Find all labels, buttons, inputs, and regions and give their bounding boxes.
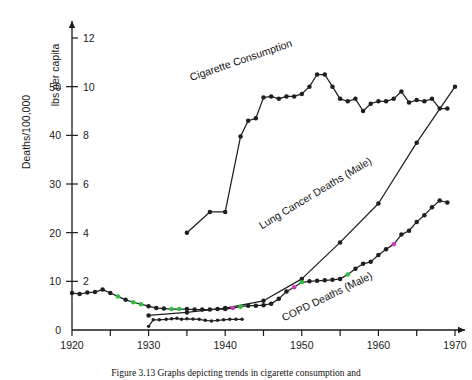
data-point-marker xyxy=(453,84,458,89)
data-point-marker xyxy=(277,297,282,302)
series-labels-layer: Cigarette ConsumptionLung Cancer Deaths … xyxy=(188,37,374,324)
data-point-marker xyxy=(414,220,419,225)
data-point-marker xyxy=(307,279,312,284)
y-axis-tick-label: 20 xyxy=(49,227,61,239)
data-point-marker xyxy=(346,272,351,277)
data-point-marker xyxy=(180,318,183,321)
data-point-marker xyxy=(261,299,266,304)
x-axis-tick-label: 1920 xyxy=(60,339,84,351)
y2-axis-title: lbs per capita xyxy=(49,44,61,107)
data-point-marker xyxy=(210,319,213,322)
data-point-marker xyxy=(399,232,404,237)
data-point-marker xyxy=(139,302,144,307)
data-point-marker xyxy=(197,318,200,321)
data-point-marker xyxy=(231,306,236,311)
data-point-marker xyxy=(292,285,297,290)
data-point-marker xyxy=(234,318,237,321)
data-point-marker xyxy=(165,318,168,321)
data-point-marker xyxy=(384,247,389,252)
data-point-marker xyxy=(77,292,82,297)
data-point-marker xyxy=(116,294,121,299)
data-point-marker xyxy=(177,307,182,312)
data-point-marker xyxy=(204,319,207,322)
data-point-marker xyxy=(254,116,259,121)
y-axis-tick-label: 40 xyxy=(49,129,61,141)
data-point-marker xyxy=(223,210,228,215)
series-line xyxy=(187,75,447,233)
data-point-marker xyxy=(154,306,159,311)
series-label: Lung Cancer Deaths (Male) xyxy=(257,154,374,231)
data-point-marker xyxy=(430,205,435,210)
data-point-marker xyxy=(376,201,381,206)
axis-titles-layer: Deaths/100,000lbs per capita xyxy=(20,44,61,169)
data-point-marker xyxy=(338,277,343,282)
data-point-marker xyxy=(399,89,404,94)
series-lower-baseline-trace xyxy=(147,317,244,328)
data-point-marker xyxy=(391,242,396,247)
data-point-marker xyxy=(228,318,231,321)
data-point-marker xyxy=(175,317,178,320)
data-point-marker xyxy=(338,240,343,245)
data-point-marker xyxy=(254,303,259,308)
data-point-marker xyxy=(376,99,381,104)
y2-axis-tick-label: 2 xyxy=(83,275,89,287)
data-point-marker xyxy=(100,287,105,292)
y2-axis-tick-label: 12 xyxy=(83,32,95,44)
data-point-marker xyxy=(391,97,396,102)
data-point-marker xyxy=(185,230,190,235)
x-axis-tick-label: 1970 xyxy=(443,339,467,351)
data-point-marker xyxy=(323,72,328,77)
y-axis-title: Deaths/100,000 xyxy=(20,95,32,169)
x-axis-tick-label: 1930 xyxy=(137,339,161,351)
data-point-marker xyxy=(422,213,427,218)
y2-axis-tick-label: 6 xyxy=(83,178,89,190)
series-line xyxy=(72,201,447,310)
x-axis-tick-label: 1960 xyxy=(367,339,391,351)
data-point-marker xyxy=(240,318,243,321)
data-point-marker xyxy=(108,291,113,296)
data-point-marker xyxy=(246,118,251,123)
y-axis-arrow-icon xyxy=(69,21,75,28)
data-point-marker xyxy=(277,97,282,102)
data-point-marker xyxy=(353,266,358,271)
data-point-marker xyxy=(162,306,167,311)
data-point-marker xyxy=(300,280,305,285)
data-point-marker xyxy=(93,290,98,295)
data-point-marker xyxy=(414,98,419,103)
data-point-marker xyxy=(407,228,412,233)
data-point-marker xyxy=(261,95,266,100)
x-axis-tick-label: 1950 xyxy=(290,339,314,351)
data-point-marker xyxy=(238,134,243,139)
data-point-marker xyxy=(191,317,194,320)
y-axis-tick-label: 0 xyxy=(55,324,61,336)
series-copd-deaths-male xyxy=(70,198,450,312)
data-point-marker xyxy=(215,307,220,312)
data-point-marker xyxy=(300,92,305,97)
y-axis-tick-label: 30 xyxy=(49,178,61,190)
data-point-marker xyxy=(445,200,450,205)
data-point-marker xyxy=(384,99,389,104)
data-point-marker xyxy=(414,140,419,145)
data-point-marker xyxy=(361,262,366,267)
data-point-marker xyxy=(70,291,75,296)
data-point-marker xyxy=(170,317,173,320)
x-axis-arrow-icon xyxy=(458,327,465,333)
data-point-marker xyxy=(323,278,328,283)
data-point-marker xyxy=(208,210,213,215)
data-point-marker xyxy=(216,319,219,322)
data-point-marker xyxy=(261,303,266,308)
data-point-marker xyxy=(284,94,289,99)
data-point-marker xyxy=(185,307,190,312)
data-point-marker xyxy=(353,97,358,102)
series-line xyxy=(149,318,242,326)
y2-axis-tick-label: 10 xyxy=(83,81,95,93)
data-point-marker xyxy=(200,307,205,312)
data-point-marker xyxy=(330,84,335,89)
y-axis-tick-label: 10 xyxy=(49,275,61,287)
data-point-marker xyxy=(223,307,228,312)
data-point-marker xyxy=(147,325,150,328)
data-point-marker xyxy=(269,301,274,306)
data-point-marker xyxy=(315,72,320,77)
